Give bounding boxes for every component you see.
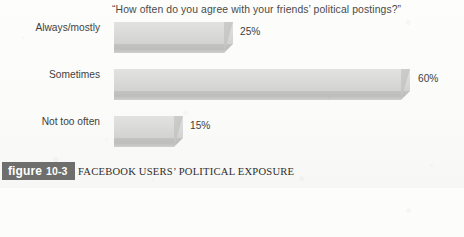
bar-1-front-face <box>114 91 410 100</box>
bar-2-front-face <box>114 138 183 147</box>
figure-caption-text: FACEBOOK USERS’ POLITICAL EXPOSURE <box>78 164 294 179</box>
bar-0-top-face <box>114 22 233 44</box>
bar-2-top-face <box>114 116 183 138</box>
figure-number-tag: figure 10-3 <box>2 162 75 180</box>
bar-2[interactable] <box>114 116 183 148</box>
chart-plot-area: Always/mostly 25% Sometimes 60% Not too … <box>0 22 464 156</box>
bar-value-label-0: 25% <box>240 26 260 37</box>
bar-0[interactable] <box>114 22 233 54</box>
chart-title: “How often do you agree with your friend… <box>112 3 452 16</box>
bar-value-label-1: 60% <box>418 73 438 84</box>
bar-1[interactable] <box>114 69 410 101</box>
bar-category-label-0: Always/mostly <box>0 22 100 33</box>
bar-0-front-face <box>114 44 233 53</box>
bar-category-label-2: Not too often <box>0 116 100 127</box>
bar-value-label-2: 15% <box>190 120 210 131</box>
figure-tag-number: 10-3 <box>46 162 67 180</box>
figure-container: “How often do you agree with your friend… <box>0 0 464 188</box>
bar-category-label-1: Sometimes <box>0 69 100 80</box>
bar-1-top-face <box>114 69 410 91</box>
figure-tag-word: figure <box>8 162 42 180</box>
figure-caption-bar: figure 10-3 FACEBOOK USERS’ POLITICAL EX… <box>0 162 464 182</box>
